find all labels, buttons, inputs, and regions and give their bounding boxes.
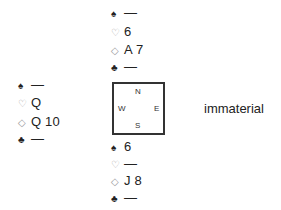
west-spades: ♠— — [18, 76, 44, 94]
north-diamonds: ◇A 7 — [111, 41, 143, 59]
compass-east: E — [154, 105, 159, 113]
heart-icon: ♡ — [111, 24, 124, 42]
north-hearts: ♡6 — [111, 23, 131, 41]
club-icon: ♣ — [111, 190, 124, 208]
compass-south: S — [135, 122, 140, 130]
south-hearts: ♡— — [111, 155, 137, 173]
club-icon: ♣ — [111, 59, 124, 77]
spade-icon: ♠ — [111, 5, 124, 23]
club-icon: ♣ — [18, 131, 31, 149]
west-diamonds: ◇Q 10 — [18, 113, 60, 131]
west-hearts: ♡Q — [18, 94, 41, 112]
south-clubs: ♣— — [111, 189, 137, 207]
south-spades: ♠6 — [111, 138, 131, 156]
heart-icon: ♡ — [18, 95, 31, 113]
compass-west: W — [118, 105, 126, 113]
east-immaterial-label: immaterial — [204, 101, 264, 117]
compass-north: N — [135, 88, 141, 96]
spade-icon: ♠ — [18, 77, 31, 95]
north-spades: ♠— — [111, 4, 137, 22]
compass-box: N E S W — [112, 82, 165, 135]
west-clubs: ♣— — [18, 130, 44, 148]
south-diamonds: ◇J 8 — [111, 172, 142, 190]
north-clubs: ♣— — [111, 58, 137, 76]
